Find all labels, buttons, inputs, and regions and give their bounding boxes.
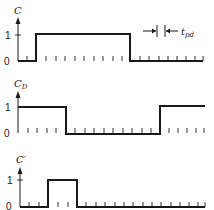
level-0-label: 0 — [6, 201, 12, 210]
arrow-up-icon — [16, 91, 21, 98]
signal-label-c-prime: C′ — [16, 154, 27, 165]
level-1-label: 1 — [7, 175, 13, 186]
waveform-c-prime — [20, 180, 205, 207]
arrow-right-icon — [152, 29, 156, 34]
arrow-up-icon — [16, 17, 21, 24]
level-1-label: 1 — [5, 102, 11, 113]
arrow-up-icon — [18, 167, 23, 174]
signal-label-c: C — [14, 5, 22, 16]
level-1-label: 1 — [5, 30, 11, 41]
arrow-left-icon — [166, 29, 170, 34]
panel-cd: CD 1 0 — [4, 78, 205, 139]
level-0-label: 0 — [4, 56, 10, 67]
panel-c-prime: C′ 1 0 — [6, 154, 205, 210]
level-0-label: 0 — [4, 128, 10, 139]
tpd-label: tpd — [181, 26, 195, 39]
timing-diagram: C 1 0 — [0, 0, 214, 210]
tpd-annotation: tpd — [143, 25, 195, 39]
time-ticks — [28, 128, 204, 133]
waveform-cd — [18, 106, 205, 134]
panel-c: C 1 0 — [4, 5, 203, 67]
signal-label-cd: CD — [14, 78, 28, 91]
